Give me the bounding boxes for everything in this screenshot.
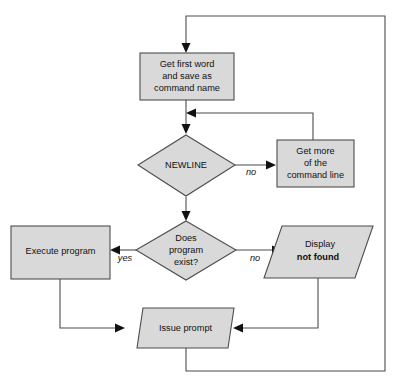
connector-newline-to-exists [182,197,191,221]
node-execute-program[interactable]: Execute program [11,226,110,279]
node-get-first-word[interactable]: Get first word and save as command name [140,53,234,100]
arrow-into-program-exists [182,211,191,221]
node-get-more-command-line[interactable]: Get more of the command line [277,140,354,187]
get-more-line-3: command line [287,170,344,180]
flowchart-svg: Get first word and save as command name … [0,0,396,386]
arrow-into-get-more [266,161,276,170]
display-not-found-line-2: not found [297,252,339,262]
node-program-exists-decision[interactable]: Does program exist? [136,221,236,280]
arrow-into-issue-prompt-left [115,324,125,333]
arrow-into-issue-prompt-right [233,324,243,333]
get-first-word-line-3: command name [154,83,220,93]
node-issue-prompt[interactable]: Issue prompt [137,308,234,348]
connector-display-to-issue-prompt [233,278,318,333]
node-display-not-found[interactable]: Display not found [264,226,373,278]
connector-firstword-to-newline [182,100,191,134]
node-newline-decision[interactable]: NEWLINE [138,135,235,196]
get-first-word-line-1: Get first word [160,59,215,69]
arrow-into-get-first-word [182,43,191,53]
issue-prompt-label: Issue prompt [159,323,213,333]
edge-label-newline-no: no [246,167,256,177]
program-exists-line-1: Does [175,233,197,243]
display-not-found-line-1: Display [305,239,336,249]
newline-label: NEWLINE [165,160,207,170]
connector-getmore-back-to-newline [186,109,313,141]
flowchart-canvas: Get first word and save as command name … [0,0,396,386]
get-first-word-line-2: and save as [162,71,212,81]
arrow-back-to-newline-junction [186,109,196,118]
get-more-line-2: of the [304,158,327,168]
connector-execute-to-issue-prompt [60,279,125,333]
edge-label-exists-no: no [250,253,260,263]
program-exists-line-2: program [169,245,204,255]
execute-program-label: Execute program [26,246,96,256]
get-more-line-1: Get more [296,146,334,156]
program-exists-line-3: exist? [174,257,198,267]
edge-label-exists-yes: yes [117,253,133,263]
arrow-into-newline [182,124,191,134]
